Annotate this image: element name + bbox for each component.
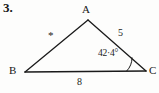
vertex-label-c: C: [149, 65, 156, 76]
figure-page: 3. A B C * 5 8 42·4°: [0, 0, 159, 93]
unknown-side-marker-ab: *: [48, 30, 54, 41]
triangle-side-bc: [25, 71, 146, 72]
triangle-side-ab: [25, 20, 88, 72]
vertex-label-b: B: [9, 65, 16, 76]
angle-measure-label-c: 42·4°: [98, 49, 118, 59]
side-length-label-ac: 5: [118, 28, 123, 38]
vertex-label-a: A: [82, 4, 90, 15]
angle-arc-at-c: [127, 57, 133, 71]
triangle-side-ac: [88, 20, 146, 71]
side-length-label-bc: 8: [77, 77, 82, 87]
